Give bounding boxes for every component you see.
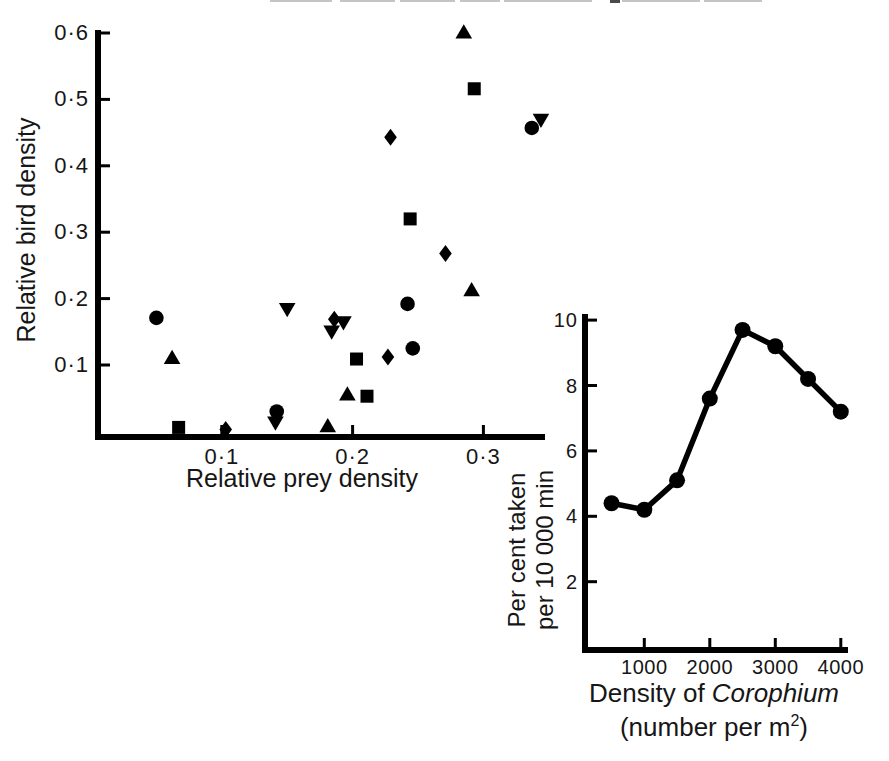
scatter-y-tick-label: 0·2 [31, 286, 89, 312]
line-data-point [735, 322, 751, 338]
line-y-tick-label: 10 [534, 309, 578, 331]
line-data-point [833, 404, 849, 420]
line-y-axis-label-line2: per 10 000 min [531, 470, 559, 630]
scatter-x-tick-label: 0·1 [190, 444, 254, 470]
scatter-y-tick-label: 0·4 [31, 153, 89, 179]
line-data-point [604, 495, 620, 511]
line-x-tick-label: 3000 [739, 656, 811, 678]
line-x-axis-label: Density of Corophium (number per m2) [589, 679, 839, 741]
figure-canvas [0, 0, 889, 761]
corophium-italic-text: Corophium [712, 678, 839, 708]
line-x-axis-label-line1: Density of Corophium [589, 679, 839, 707]
line-data-point [636, 502, 652, 518]
scatter-y-tick-label: 0·5 [31, 86, 89, 112]
line-data-point [800, 371, 816, 387]
scatter-series-triangle-down [267, 114, 549, 431]
line-x-tick-label: 2000 [674, 656, 746, 678]
scatter-x-tick-label: 0·2 [321, 444, 385, 470]
figure-scan: Relative bird density Relative prey dens… [0, 0, 889, 761]
line-y-tick-label: 2 [534, 571, 578, 593]
line-series [612, 330, 841, 510]
scatter-y-tick-label: 0·1 [31, 352, 89, 378]
line-x-tick-label: 1000 [608, 656, 680, 678]
scatter-series-square [172, 82, 481, 434]
density-of-text: Density of [589, 678, 712, 708]
line-data-point [702, 391, 718, 407]
line-y-axis-label-line1: Per cent taken [503, 470, 531, 630]
line-plot [582, 314, 849, 653]
number-per-m-text: (number per m [620, 712, 791, 742]
line-data-point [669, 472, 685, 488]
line-data-point [767, 338, 783, 354]
line-y-tick-label: 8 [534, 375, 578, 397]
scatter-y-tick-label: 0·6 [31, 20, 89, 46]
line-y-tick-label: 4 [534, 505, 578, 527]
scatter-series-diamond [219, 129, 451, 438]
line-y-axis-label: Per cent taken per 10 000 min [503, 470, 559, 630]
line-y-tick-label: 6 [534, 440, 578, 462]
line-x-tick-label: 4000 [805, 656, 877, 678]
scatter-x-tick-label: 0·3 [451, 444, 515, 470]
scatter-y-tick-label: 0·3 [31, 219, 89, 245]
scatter-plot [95, 24, 549, 440]
close-paren-text: ) [799, 712, 808, 742]
line-x-axis-label-line2: (number per m2) [589, 707, 839, 741]
scatter-series-triangle-up [164, 24, 480, 432]
scatter-series-circle [149, 121, 539, 419]
